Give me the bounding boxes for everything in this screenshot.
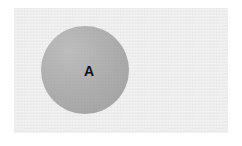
figure-canvas: A [0, 0, 242, 146]
circle-shape-a: A [41, 26, 129, 114]
circle-label-a: A [41, 26, 129, 114]
